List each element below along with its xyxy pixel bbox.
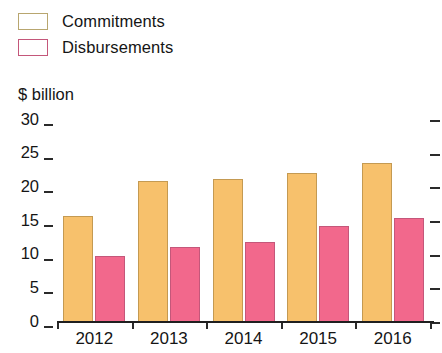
y-axis-tick-label: 5 — [30, 279, 39, 296]
x-axis-tick-mark — [430, 323, 432, 329]
y-axis-tick-label: 0 — [30, 313, 39, 330]
x-axis-label-2014: 2014 — [225, 329, 263, 349]
y-axis-right-tick-mark — [430, 120, 440, 122]
y-axis: 051015202530 — [0, 120, 57, 322]
bar-commitments-2015 — [287, 173, 317, 322]
bar-disbursements-2014 — [245, 242, 275, 322]
legend-swatch-commitments-icon — [18, 13, 48, 30]
legend-label-disbursements: Disbursements — [62, 38, 173, 57]
y-axis-tick-mark — [44, 326, 53, 328]
y-axis-tick-mark — [44, 259, 53, 261]
bar-disbursements-2016 — [394, 218, 424, 322]
y-axis-tick-mark — [44, 158, 53, 160]
y-axis-tick-label: 20 — [21, 178, 39, 195]
legend-item-commitments: Commitments — [18, 8, 173, 34]
y-axis-right-tick-mark — [430, 154, 440, 156]
y-axis-tick-label: 15 — [21, 212, 39, 229]
bar-commitments-2012 — [63, 216, 93, 322]
legend-swatch-disbursements-icon — [18, 39, 48, 56]
y-axis-unit-label: $ billion — [18, 85, 74, 104]
y-axis-tick-mark — [44, 292, 53, 294]
y-axis-tick-mark — [44, 225, 53, 227]
x-axis-label-2016: 2016 — [374, 329, 412, 349]
x-axis-labels: 20122013201420152016 — [57, 329, 430, 353]
y-axis-tick-mark — [44, 191, 53, 193]
bar-commitments-2013 — [138, 181, 168, 322]
legend-label-commitments: Commitments — [62, 12, 165, 31]
chart-legend: Commitments Disbursements — [18, 8, 173, 60]
bar-commitments-2014 — [213, 179, 243, 322]
y-axis-tick-label: 30 — [21, 111, 39, 128]
y-axis-right-tick-mark — [430, 288, 440, 290]
x-axis-label-2013: 2013 — [150, 329, 188, 349]
y-axis-right-tick-mark — [430, 255, 440, 257]
x-axis-baseline — [57, 321, 434, 323]
plot-area — [57, 120, 430, 322]
bar-disbursements-2012 — [95, 256, 125, 322]
legend-item-disbursements: Disbursements — [18, 34, 173, 60]
bar-disbursements-2013 — [170, 247, 200, 322]
y-axis-tick-label: 10 — [21, 245, 39, 262]
y-axis-right-tick-mark — [430, 187, 440, 189]
bar-chart: Commitments Disbursements $ billion 0510… — [0, 0, 442, 353]
y-axis-right-tick-mark — [430, 221, 440, 223]
bar-commitments-2016 — [362, 163, 392, 322]
bars-layer — [57, 120, 430, 322]
x-axis-label-2012: 2012 — [75, 329, 113, 349]
y-axis-right-ticks — [430, 120, 442, 322]
x-axis-label-2015: 2015 — [299, 329, 337, 349]
y-axis-tick-label: 25 — [21, 144, 39, 161]
bar-disbursements-2015 — [319, 226, 349, 322]
y-axis-tick-mark — [44, 124, 53, 126]
